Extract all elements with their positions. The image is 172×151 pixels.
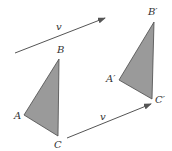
triangle-a-prime-b-prime-c-prime xyxy=(119,22,154,99)
vertex-label-c: C xyxy=(54,139,62,150)
translation-diagram: v v A B C A′ B′ C′ xyxy=(0,0,172,151)
vertex-label-c-prime: C′ xyxy=(155,94,166,105)
vector-v-bottom-label: v xyxy=(100,111,106,122)
vertex-label-b: B xyxy=(56,44,64,55)
vertex-label-a-prime: A′ xyxy=(105,73,116,84)
triangle-abc xyxy=(24,59,59,136)
vector-v-top-label: v xyxy=(56,21,62,32)
vertex-label-a: A xyxy=(13,110,21,121)
vector-v-bottom-arrow xyxy=(67,104,151,138)
vertex-label-b-prime: B′ xyxy=(147,6,158,17)
